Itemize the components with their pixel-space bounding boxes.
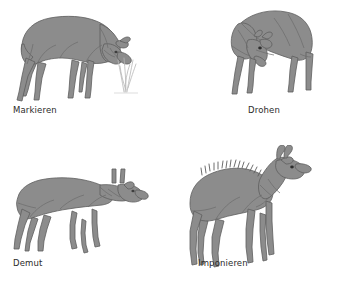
panel-label-drohen: Drohen xyxy=(248,105,280,115)
behaviour-figure-plate: Markieren xyxy=(0,0,352,289)
panel-label-imponieren: Imponieren xyxy=(198,258,248,268)
panel-label-markieren: Markieren xyxy=(13,105,57,115)
panel-imponieren: Imponieren xyxy=(176,145,352,289)
panel-label-demut: Demut xyxy=(13,258,43,268)
panel-demut: Demut xyxy=(0,145,176,289)
panel-markieren: Markieren xyxy=(0,0,176,144)
panel-drohen: Drohen xyxy=(176,0,352,144)
chamois-threatening-figure xyxy=(176,0,352,144)
chamois-marking-figure xyxy=(0,0,176,144)
